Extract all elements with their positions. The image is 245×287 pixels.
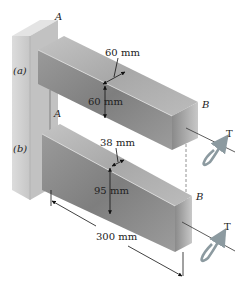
label-torque-top: T bbox=[226, 128, 233, 139]
label-torque-bottom: T bbox=[224, 221, 231, 232]
wall-front-face bbox=[12, 36, 30, 200]
label-support-a-bottom: A bbox=[53, 108, 61, 119]
dim-label-b-height: 95 mm bbox=[94, 185, 129, 196]
label-case-b: (b) bbox=[13, 143, 27, 154]
dim-label-length: 300 mm bbox=[96, 231, 138, 242]
torsion-bars-diagram: A (a) A (b) B B T T 60 mm 60 mm 38 mm 95… bbox=[0, 0, 245, 287]
label-end-b-top: B bbox=[201, 99, 209, 110]
dim-label-a-width: 60 mm bbox=[105, 47, 140, 58]
label-case-a: (a) bbox=[13, 65, 27, 76]
dim-label-b-width: 38 mm bbox=[100, 137, 135, 148]
label-end-b-bottom: B bbox=[195, 191, 203, 202]
label-support-a-top: A bbox=[54, 11, 62, 22]
torque-arrow-b-icon bbox=[202, 232, 224, 261]
dim-label-a-height: 60 mm bbox=[88, 96, 123, 107]
